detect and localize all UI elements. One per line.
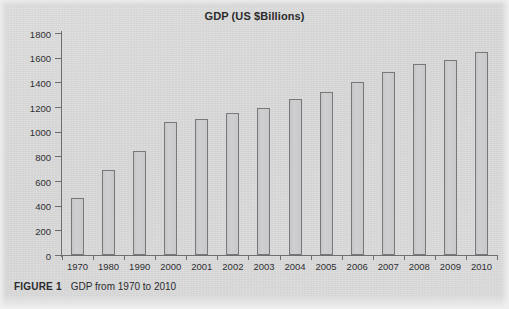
y-axis-tick: 0 [55,255,62,256]
x-axis-tick-label: 2006 [347,261,368,272]
bar [133,151,146,255]
x-axis-tick-mark [217,255,218,260]
x-axis-tick-mark [248,255,249,260]
x-axis-tick-mark [466,255,467,260]
x-axis-tick-mark [497,255,498,260]
x-axis-tick-mark [280,255,281,260]
chart-title: GDP (US $Billions) [0,10,509,22]
y-axis-tick-label: 1600 [30,53,51,64]
figure-caption-label: FIGURE 1 [14,281,62,292]
x-axis-tick-label: 2001 [191,261,212,272]
x-axis-tick-label: 1980 [98,261,119,272]
bar [413,64,426,255]
x-axis-tick-mark [373,255,374,260]
x-axis-tick-mark [311,255,312,260]
y-axis-tick: 1200 [55,107,62,108]
y-axis-tick-label: 800 [35,151,51,162]
x-axis-tick-mark [404,255,405,260]
y-axis-tick-label: 1000 [30,127,51,138]
x-axis-tick-label: 2010 [471,261,492,272]
y-axis-tick-label: 1800 [30,28,51,39]
y-axis-tick-mark [55,230,62,231]
bar [164,122,177,255]
bar [289,99,302,255]
x-axis-tick-mark [435,255,436,260]
x-axis-tick-label: 2000 [160,261,181,272]
x-axis-tick-label: 2003 [253,261,274,272]
y-axis-tick: 400 [55,206,62,207]
x-axis-tick-label: 2002 [222,261,243,272]
x-axis-tick-mark [186,255,187,260]
y-axis-tick: 1600 [55,58,62,59]
y-axis-tick: 1800 [55,33,62,34]
y-axis-tick-mark [55,132,62,133]
bar [71,198,84,255]
page-edge-top [0,0,509,5]
x-axis-tick-label: 2005 [316,261,337,272]
y-axis-tick-label: 0 [46,250,51,261]
bar [444,60,457,255]
x-axis-tick-label: 2009 [440,261,461,272]
page-edge-right [501,0,509,309]
y-axis-tick-label: 200 [35,225,51,236]
x-axis-tick-mark [155,255,156,260]
y-axis-tick-mark [55,255,62,256]
page-edge-bottom [0,295,509,309]
y-axis-tick-mark [55,181,62,182]
y-axis-tick-mark [55,156,62,157]
y-axis-tick-mark [55,33,62,34]
x-axis-tick-label: 2008 [409,261,430,272]
bar [226,113,239,255]
y-axis-tick: 200 [55,230,62,231]
bar [102,170,115,255]
y-axis-tick: 600 [55,181,62,182]
y-axis-tick-label: 600 [35,176,51,187]
y-axis-tick-label: 1200 [30,102,51,113]
plot-area [62,33,497,255]
figure-container: GDP (US $Billions) 020040060080010001200… [0,0,509,309]
bar [257,108,270,255]
figure-caption-text: GDP from 1970 to 2010 [71,281,176,292]
y-axis-tick: 1400 [55,82,62,83]
figure-caption: FIGURE 1GDP from 1970 to 2010 [14,281,176,292]
bar [195,119,208,255]
x-axis-tick-label: 1970 [67,261,88,272]
y-axis-tick-label: 400 [35,201,51,212]
y-axis-tick: 800 [55,156,62,157]
y-axis-tick-mark [55,82,62,83]
y-axis-tick: 1000 [55,132,62,133]
x-axis-tick-label: 2004 [284,261,305,272]
y-axis-tick-mark [55,107,62,108]
x-axis-tick-label: 2007 [378,261,399,272]
bar [320,92,333,255]
y-axis-tick-mark [55,58,62,59]
x-axis-tick-mark [342,255,343,260]
bar [382,72,395,255]
y-axis-tick-label: 1400 [30,77,51,88]
bar [475,52,488,256]
x-axis-tick-mark [124,255,125,260]
bar [351,82,364,255]
page-edge-left [0,0,6,309]
y-axis-tick-mark [55,206,62,207]
x-axis-tick-mark [93,255,94,260]
x-axis-tick-label: 1990 [129,261,150,272]
x-axis-tick-mark [62,255,63,260]
